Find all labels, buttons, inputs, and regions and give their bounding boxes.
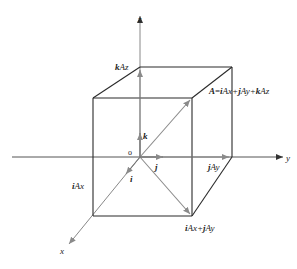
x-axis-label: x bbox=[59, 246, 64, 256]
vector-A-equation: A=iAx+jAy+kAz bbox=[208, 86, 270, 96]
unit-i-label: i bbox=[130, 174, 133, 184]
jAy-label: jAy bbox=[206, 162, 220, 172]
vector-diagram: z y x o k j i kAz jAy iAx iAx+jAy A=iAx+… bbox=[0, 0, 297, 269]
axes bbox=[12, 16, 283, 244]
unit-j-label: j bbox=[153, 162, 158, 172]
vector-iAx-jAy bbox=[140, 157, 190, 214]
iAx-plus-jAy-label: iAx+jAy bbox=[185, 223, 215, 233]
z-axis-label: z bbox=[137, 14, 142, 24]
unit-vector-i bbox=[126, 157, 140, 174]
unit-k-label: k bbox=[143, 131, 148, 141]
iAx-label: iAx bbox=[72, 181, 84, 191]
vector-A bbox=[140, 100, 190, 157]
kAz-label: kAz bbox=[115, 62, 129, 72]
y-axis-label: y bbox=[285, 153, 290, 163]
origin-label: o bbox=[128, 148, 132, 157]
